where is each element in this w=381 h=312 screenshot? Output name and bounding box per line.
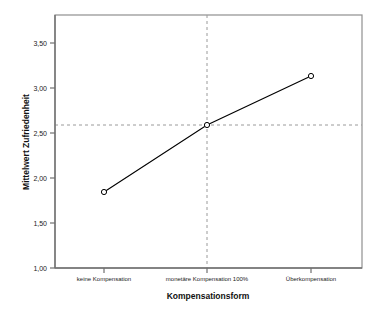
x-axis-ticks: [104, 268, 311, 273]
x-tick-label-monetaere-kompensation: monetäre Kompensation 100%: [166, 276, 249, 282]
x-tick-label-ueberkompensation: Überkompensation: [286, 276, 336, 282]
x-tick-label-keine-kompensation: keine Kompensation: [77, 276, 131, 282]
y-tick-label-250: 2,50: [33, 130, 47, 137]
y-tick-label-150: 1,50: [33, 220, 47, 227]
data-point-marker: [308, 73, 313, 78]
y-axis-title: Mittelwert Zufriedenheit: [21, 94, 31, 190]
plot-area-background: [55, 15, 362, 268]
line-chart: 3,50 3,00 2,50 2,00 1,50 1,00 keine Komp…: [0, 0, 381, 312]
x-axis-title: Kompensationsform: [167, 291, 250, 301]
y-tick-label-350: 3,50: [33, 40, 47, 47]
y-tick-label-100: 1,00: [33, 265, 47, 272]
y-axis-ticks: [50, 43, 55, 268]
data-point-marker: [204, 122, 209, 127]
y-tick-label-200: 2,00: [33, 175, 47, 182]
data-point-marker: [101, 189, 106, 194]
y-tick-label-300: 3,00: [33, 85, 47, 92]
chart-container: 3,50 3,00 2,50 2,00 1,50 1,00 keine Komp…: [0, 0, 381, 312]
